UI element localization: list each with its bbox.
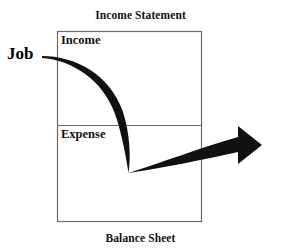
expense-section-label: Expense [61,127,105,142]
cashflow-diagram: Income Statement Balance Sheet Income Ex… [0,0,281,250]
job-source-label: Job [7,44,33,64]
income-section-label: Income [61,33,101,48]
diagram-graphics-layer [0,0,281,250]
